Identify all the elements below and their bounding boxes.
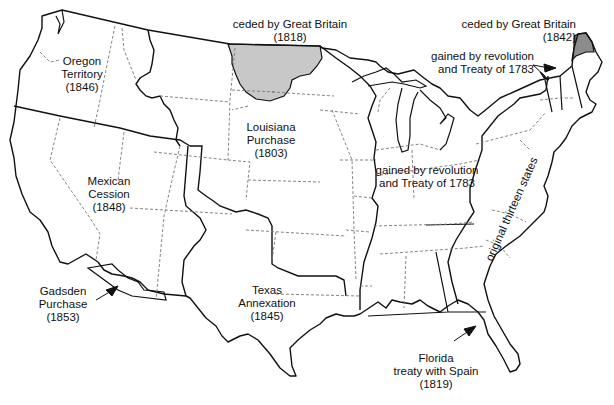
gulf-states-boundary xyxy=(368,224,486,316)
puget-sound xyxy=(56,10,64,34)
revolution-northeast-label: gained by revolution and Treaty of 1783 xyxy=(414,50,534,76)
texas-annexation-label: Texas Annexation (1845) xyxy=(232,284,302,323)
florida-label: Florida treaty with Spain (1819) xyxy=(386,352,486,391)
original-thirteen-boundary xyxy=(448,76,548,304)
mexican-cession-east-boundary xyxy=(190,146,346,296)
gadsden-purchase-label: Gadsden Purchase (1853) xyxy=(34,285,92,324)
lake-michigan xyxy=(396,88,418,152)
gadsden-purchase-outline xyxy=(88,264,166,300)
oregon-boundary xyxy=(14,106,190,146)
ceded-1818-label: ceded by Great Britain (1818) xyxy=(220,18,360,44)
texas-west-boundary xyxy=(182,146,206,296)
revolution-midwest-label: gained by revolution and Treaty of 1783 xyxy=(372,164,482,190)
michigan-lower xyxy=(420,90,454,150)
louisiana-west-boundary xyxy=(136,30,180,146)
louisiana-purchase-label: Louisiana Purchase (1803) xyxy=(236,121,306,160)
mexican-cession-label: Mexican Cession (1848) xyxy=(80,175,138,214)
ceded-1818-region xyxy=(228,44,322,101)
oregon-territory-label: Oregon Territory (1846) xyxy=(52,55,112,94)
ceded-1842-label: ceded by Great Britain (1842) xyxy=(446,18,576,44)
